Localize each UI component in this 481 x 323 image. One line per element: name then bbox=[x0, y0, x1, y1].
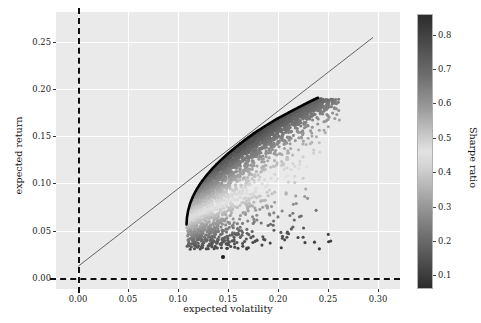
scatter-point bbox=[249, 145, 252, 148]
scatter-point bbox=[243, 197, 246, 200]
colorbar-tick-mark-6 bbox=[433, 69, 436, 70]
scatter-point bbox=[213, 227, 216, 230]
scatter-point bbox=[300, 112, 303, 115]
scatter-point bbox=[276, 161, 279, 164]
scatter-point bbox=[260, 222, 263, 225]
scatter-point bbox=[192, 216, 195, 219]
scatter-point bbox=[227, 183, 230, 186]
scatter-point bbox=[221, 223, 224, 226]
scatter-point bbox=[271, 139, 274, 142]
x-tick-mark-5 bbox=[328, 289, 329, 292]
colorbar: 0.10.20.30.40.50.60.70.8 bbox=[417, 14, 433, 289]
scatter-point bbox=[229, 187, 232, 190]
scatter-point bbox=[318, 151, 321, 154]
scatter-point bbox=[190, 217, 193, 220]
scatter-point bbox=[264, 164, 267, 167]
scatter-point bbox=[192, 225, 195, 228]
scatter-point bbox=[199, 247, 202, 250]
scatter-point bbox=[322, 120, 325, 123]
scatter-point bbox=[279, 231, 282, 234]
scatter-point bbox=[259, 155, 262, 158]
scatter-point bbox=[241, 201, 244, 204]
scatter-point bbox=[245, 247, 248, 250]
scatter-point bbox=[292, 134, 295, 137]
scatter-point bbox=[254, 209, 257, 212]
scatter-point bbox=[287, 151, 290, 154]
scatter-point bbox=[266, 205, 269, 208]
scatter-point bbox=[190, 237, 193, 240]
scatter-point bbox=[252, 235, 255, 238]
scatter-point bbox=[272, 145, 275, 148]
scatter-point bbox=[257, 137, 260, 140]
scatter-point bbox=[210, 207, 213, 210]
scatter-point bbox=[239, 184, 242, 187]
scatter-point bbox=[241, 222, 244, 225]
scatter-point bbox=[261, 206, 264, 209]
scatter-point bbox=[312, 152, 315, 155]
scatter-point bbox=[270, 192, 273, 195]
scatter-point bbox=[306, 197, 309, 200]
scatter-point bbox=[225, 187, 228, 190]
scatter-point bbox=[187, 238, 190, 241]
scatter-point bbox=[204, 219, 207, 222]
scatter-point bbox=[232, 174, 235, 177]
scatter-point bbox=[271, 148, 274, 151]
scatter-point bbox=[283, 143, 286, 146]
scatter-point bbox=[216, 193, 219, 196]
colorbar-gradient bbox=[417, 14, 433, 289]
scatter-point bbox=[293, 175, 296, 178]
scatter-point bbox=[254, 190, 257, 193]
scatter-point bbox=[220, 225, 223, 228]
scatter-point bbox=[212, 191, 215, 194]
scatter-point bbox=[246, 192, 249, 195]
scatter-point bbox=[303, 241, 306, 244]
scatter-point bbox=[248, 171, 251, 174]
scatter-point bbox=[302, 155, 305, 158]
scatter-point bbox=[294, 139, 297, 142]
scatter-point bbox=[222, 237, 225, 240]
scatter-point bbox=[309, 112, 312, 115]
scatter-point bbox=[327, 233, 330, 236]
scatter-point bbox=[249, 193, 252, 196]
colorbar-tick-label-3: 0.4 bbox=[438, 167, 451, 177]
scatter-point bbox=[304, 121, 307, 124]
scatter-point bbox=[262, 157, 265, 160]
scatter-point bbox=[216, 247, 219, 250]
scatter-point bbox=[261, 165, 264, 168]
scatter-point bbox=[205, 224, 208, 227]
scatter-point bbox=[246, 207, 249, 210]
scatter-point bbox=[225, 191, 228, 194]
scatter-point bbox=[322, 110, 325, 113]
scatter-point bbox=[326, 98, 329, 101]
scatter-point bbox=[287, 136, 290, 139]
scatter-point bbox=[199, 235, 202, 238]
scatter-layer bbox=[56, 12, 400, 289]
scatter-point bbox=[231, 203, 234, 206]
scatter-point bbox=[197, 242, 200, 245]
scatter-point bbox=[192, 202, 195, 205]
y-tick-label-2: 0.10 bbox=[32, 178, 51, 188]
scatter-point bbox=[230, 162, 233, 165]
colorbar-tick-mark-5 bbox=[433, 103, 436, 104]
scatter-point bbox=[225, 231, 228, 234]
scatter-point bbox=[272, 152, 275, 155]
scatter-point bbox=[301, 142, 304, 145]
scatter-point bbox=[214, 214, 217, 217]
scatter-point bbox=[228, 181, 231, 184]
scatter-point bbox=[238, 160, 241, 163]
scatter-point bbox=[303, 115, 306, 118]
y-tick-label-1: 0.05 bbox=[32, 226, 51, 236]
scatter-point bbox=[220, 175, 223, 178]
scatter-point bbox=[202, 203, 205, 206]
scatter-point bbox=[228, 214, 231, 217]
scatter-point bbox=[193, 247, 196, 250]
scatter-point bbox=[207, 195, 210, 198]
scatter-point bbox=[222, 199, 225, 202]
scatter-point bbox=[293, 113, 296, 116]
scatter-point bbox=[188, 242, 191, 245]
scatter-point bbox=[281, 162, 284, 165]
scatter-point bbox=[251, 164, 254, 167]
scatter-point bbox=[217, 215, 220, 218]
scatter-point bbox=[307, 124, 310, 127]
scatter-point bbox=[295, 202, 298, 205]
